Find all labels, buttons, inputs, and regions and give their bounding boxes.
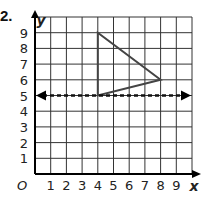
y-tick-label: 3	[20, 120, 28, 135]
x-tick-label: 2	[62, 178, 70, 193]
coordinate-grid-figure: 123456789123456789Oxy	[0, 0, 206, 210]
axes	[31, 10, 201, 178]
x-tick-label: 4	[94, 178, 102, 193]
origin-label: O	[17, 178, 27, 193]
x-tick-label: 1	[47, 178, 55, 193]
x-axis-arrow-icon	[192, 170, 201, 178]
y-tick-label: 6	[20, 73, 28, 88]
y-tick-label: 1	[20, 151, 28, 166]
x-tick-label: 6	[125, 178, 133, 193]
left-arrowhead-icon	[36, 91, 46, 101]
x-tick-label: 3	[78, 178, 86, 193]
y-axis-label: y	[36, 12, 46, 28]
x-tick-label: 8	[156, 178, 164, 193]
x-axis-label: x	[188, 178, 199, 194]
y-tick-label: 5	[20, 89, 28, 104]
y-tick-label: 8	[20, 41, 28, 56]
x-tick-label: 5	[109, 178, 117, 193]
x-tick-label: 7	[141, 178, 149, 193]
right-arrowhead-icon	[181, 91, 191, 101]
y-tick-label: 4	[20, 104, 28, 119]
x-tick-label: 9	[172, 178, 180, 193]
y-tick-label: 7	[20, 57, 28, 72]
y-tick-label: 2	[20, 136, 28, 151]
y-tick-label: 9	[20, 26, 28, 41]
